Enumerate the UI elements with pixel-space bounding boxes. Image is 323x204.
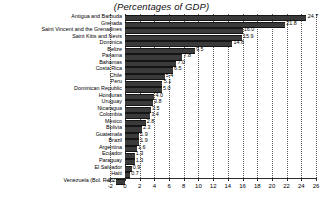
- x-tick-4: [154, 178, 155, 181]
- bar-chart: (Percentages of GDP) Antigua and Barbuda…: [0, 0, 323, 204]
- x-tick-label: 12: [205, 182, 221, 190]
- x-tick-label: 4: [146, 182, 162, 190]
- x-tick-22: [287, 178, 288, 181]
- x-tick--2: [110, 178, 111, 181]
- bar-value-label: 9.5: [196, 46, 204, 53]
- x-tick-label: 6: [161, 182, 177, 190]
- x-tick-12: [213, 178, 214, 181]
- x-tick-6: [169, 178, 170, 181]
- x-tick-10: [198, 178, 199, 181]
- x-tick-18: [257, 178, 258, 181]
- bar-value-label: 5.0: [163, 85, 171, 92]
- x-tick-label: 2: [132, 182, 148, 190]
- chart-title: (Percentages of GDP): [0, 1, 323, 12]
- x-tick-label: 14: [220, 182, 236, 190]
- bar-value-label: 14.6: [233, 39, 244, 46]
- x-tick-label: 22: [279, 182, 295, 190]
- x-tick-26: [316, 178, 317, 181]
- x-tick-14: [228, 178, 229, 181]
- x-tick-20: [272, 178, 273, 181]
- bar-value-label: 24.7: [308, 13, 319, 20]
- x-tick-label: 18: [249, 182, 265, 190]
- x-tick-label: 0: [117, 182, 133, 190]
- x-tick-8: [184, 178, 185, 181]
- x-tick-24: [301, 178, 302, 181]
- x-tick-label: 20: [264, 182, 280, 190]
- x-tick-label: -2: [102, 182, 118, 190]
- x-tick-label: 26: [308, 182, 323, 190]
- bar-rows-layer: Antigua and Barbuda24.7Grenada21.8Saint …: [0, 14, 323, 178]
- x-tick-label: 16: [235, 182, 251, 190]
- x-tick-0: [125, 178, 126, 181]
- bar-value-label: 15.9: [243, 33, 254, 40]
- x-tick-label: 10: [190, 182, 206, 190]
- x-tick-2: [140, 178, 141, 181]
- x-tick-label: 8: [176, 182, 192, 190]
- bar-value-label: 21.8: [286, 20, 297, 27]
- bar-value-label: 0.7: [131, 170, 139, 177]
- bar-value-label: 6.5: [174, 65, 182, 72]
- x-tick-16: [243, 178, 244, 181]
- x-tick-label: 24: [293, 182, 309, 190]
